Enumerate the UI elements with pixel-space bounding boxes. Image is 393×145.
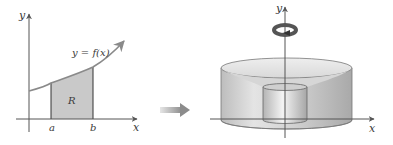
b-label: b: [90, 122, 96, 133]
curve-label: y = f(x): [71, 47, 110, 58]
right-arrow-icon: [160, 103, 190, 117]
a-label: a: [49, 122, 55, 133]
solid-of-revolution: y x: [210, 2, 376, 138]
y-axis-label: y: [18, 9, 26, 22]
x-axis-label-3d: x: [369, 122, 376, 135]
y-axis-label-3d: y: [275, 2, 283, 15]
left-graph: y x y = f(x) R a b: [16, 9, 140, 134]
region-label: R: [67, 95, 76, 106]
x-axis-label: x: [133, 121, 140, 134]
revolution-diagram: y x y = f(x) R a b y x: [0, 0, 393, 145]
